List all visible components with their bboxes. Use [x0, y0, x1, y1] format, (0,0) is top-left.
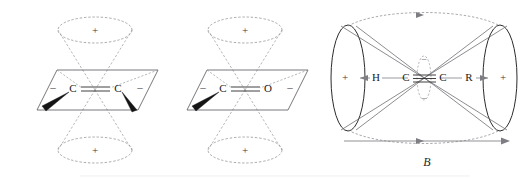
alkyne-atom-r: R — [465, 71, 473, 83]
orbital-diagram-svg: + + C C – – + + — [0, 0, 531, 179]
alkyne-plus-right: + — [500, 71, 506, 83]
figure-root: + + C C – – + + — [0, 0, 531, 179]
alkyne-minus-bottom: – — [421, 92, 427, 102]
alkene-atom-right: C — [114, 82, 121, 94]
alkene-minus-left: – — [49, 81, 56, 93]
alkyne-minus-top: – — [421, 53, 427, 63]
alkyne-plus-left: + — [342, 71, 348, 83]
alkyne-atom-h: H — [372, 71, 380, 83]
alkyne-atom-c2: C — [439, 71, 446, 83]
alkyne-atom-c1: C — [402, 71, 409, 83]
carbonyl-minus-right: – — [286, 81, 293, 93]
alkene-plus-bottom: + — [92, 144, 98, 156]
field-label-b: B — [423, 155, 431, 169]
carbonyl-minus-left: – — [199, 81, 206, 93]
alkene-atom-left: C — [69, 82, 76, 94]
carbonyl-atom-right: O — [264, 82, 272, 94]
carbonyl-plus-top: + — [242, 24, 248, 36]
carbonyl-plus-bottom: + — [242, 144, 248, 156]
carbonyl-atom-left: C — [219, 82, 226, 94]
alkene-minus-right: – — [136, 81, 143, 93]
alkene-plus-top: + — [92, 24, 98, 36]
